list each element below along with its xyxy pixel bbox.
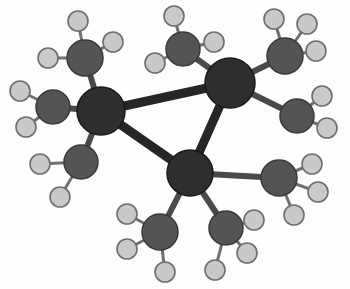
hydrogen-atom: [264, 9, 284, 29]
hydrogen-atom: [145, 53, 165, 73]
hydrogen-atom: [117, 239, 137, 259]
core-atom: [77, 87, 125, 135]
molecular-structure-figure: [0, 0, 350, 289]
hydrogen-atom: [68, 11, 88, 31]
hydrogen-atom: [117, 204, 137, 224]
hydrogen-atom: [16, 117, 36, 137]
methyl-carbon-atom: [209, 211, 243, 245]
hydrogen-atom: [297, 14, 317, 34]
methyl-carbon-atom: [280, 99, 314, 133]
methyl-carbon-atom: [67, 40, 103, 76]
molecule-diagram: [0, 0, 350, 289]
methyl-carbon-atom: [64, 145, 98, 179]
methyl-carbon-atom: [267, 38, 303, 74]
methyl-carbon-atom: [142, 214, 178, 250]
hydrogen-atom: [155, 262, 175, 282]
hydrogen-atom: [30, 154, 50, 174]
hydrogen-atom: [38, 48, 58, 68]
hydrogen-atom: [10, 81, 30, 101]
methyl-carbon-atom: [261, 160, 297, 196]
methyl-carbon-atom: [166, 32, 200, 66]
hydrogen-atom: [308, 182, 328, 202]
core-atom: [205, 58, 255, 108]
hydrogen-atom: [317, 118, 337, 138]
hydrogen-atom: [164, 6, 184, 26]
methyl-carbon-atom: [36, 90, 70, 124]
hydrogen-atom: [103, 32, 123, 52]
hydrogen-atom: [306, 41, 326, 61]
hydrogen-atom: [302, 154, 322, 174]
hydrogen-atom: [284, 205, 304, 225]
hydrogen-atom: [244, 210, 264, 230]
hydrogen-atom: [204, 32, 224, 52]
hydrogen-atom: [312, 86, 332, 106]
hydrogen-atom: [205, 260, 225, 280]
core-atom: [167, 150, 213, 196]
hydrogen-atom: [50, 187, 70, 207]
hydrogen-atom: [237, 243, 257, 263]
